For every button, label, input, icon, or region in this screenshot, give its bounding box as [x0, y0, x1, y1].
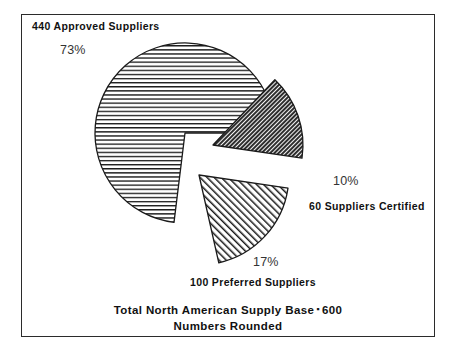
pie-slice-preferred-suppliers — [199, 175, 288, 263]
label-preferred-suppliers: 100 Preferred Suppliers — [190, 276, 316, 288]
label-approved-suppliers: 440 Approved Suppliers — [32, 20, 160, 32]
caption-line-2: Numbers Rounded — [21, 319, 435, 335]
caption-bullet-icon: ▪ — [314, 304, 322, 314]
label-suppliers-certified: 60 Suppliers Certified — [309, 200, 425, 212]
label-approved-percent: 73% — [60, 43, 86, 57]
caption-line-1: Total North American Supply Base▪600 — [21, 303, 435, 319]
caption-total-value: 600 — [322, 304, 342, 316]
label-preferred-percent: 17% — [253, 255, 279, 269]
caption-total-prefix: Total North American Supply Base — [114, 304, 315, 316]
chart-caption: Total North American Supply Base▪600 Num… — [21, 303, 435, 334]
label-certified-percent: 10% — [333, 174, 359, 188]
figure-root: 440 Approved Suppliers 73% 10% 60 Suppli… — [0, 0, 457, 357]
